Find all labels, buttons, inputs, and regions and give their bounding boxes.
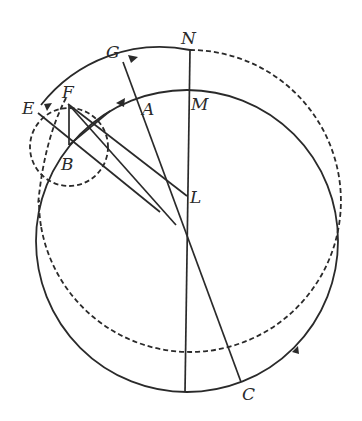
label-E: E: [22, 100, 34, 117]
line-F-center: [70, 106, 176, 225]
label-G: G: [106, 44, 120, 61]
label-N: N: [181, 30, 196, 47]
label-B: B: [61, 156, 74, 173]
inner-dashed-arc: [38, 98, 66, 205]
arrow-G-icon: [128, 55, 138, 63]
arrow-E-icon: [44, 103, 52, 111]
label-A: A: [142, 101, 154, 118]
label-C: C: [242, 386, 255, 403]
geometry-figure: [0, 0, 362, 421]
label-M: M: [191, 96, 208, 113]
vertical-line-NM: [185, 50, 190, 392]
line-GC: [123, 62, 241, 382]
label-F: F: [62, 84, 74, 101]
diagram: N M G F E A B L C: [0, 0, 362, 421]
label-L: L: [190, 189, 201, 206]
